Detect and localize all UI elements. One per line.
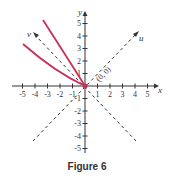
v-axis xyxy=(36,36,136,141)
origin-label: (0, 0) xyxy=(94,65,113,84)
origin-point xyxy=(83,84,88,89)
v-axis-label: v xyxy=(27,29,31,39)
svg-text:-4: -4 xyxy=(74,132,81,141)
svg-text:-5: -5 xyxy=(74,144,81,153)
u-axis-label: u xyxy=(139,33,144,43)
svg-text:4: 4 xyxy=(133,90,137,99)
x-axis-label: x xyxy=(157,85,162,95)
svg-text:-3: -3 xyxy=(44,90,51,99)
svg-text:2: 2 xyxy=(77,57,81,66)
svg-text:5: 5 xyxy=(77,19,81,28)
y-axis-arrow-icon xyxy=(83,11,88,16)
svg-text:3: 3 xyxy=(77,44,81,53)
svg-text:4: 4 xyxy=(77,32,81,41)
curve-upper xyxy=(43,20,85,86)
svg-text:-4: -4 xyxy=(32,90,39,99)
graph: -5 -4 -3 -2 -1 1 2 3 4 5 5 4 3 2 1 -1 -2… xyxy=(0,0,174,184)
svg-text:2: 2 xyxy=(108,90,112,99)
y-axis-label: y xyxy=(77,7,82,17)
svg-text:3: 3 xyxy=(121,90,125,99)
svg-text:1: 1 xyxy=(96,90,100,99)
curve-lower xyxy=(23,44,85,86)
svg-text:-2: -2 xyxy=(74,107,81,116)
figure-caption: Figure 6 xyxy=(0,161,174,172)
svg-text:-5: -5 xyxy=(19,90,26,99)
svg-text:5: 5 xyxy=(146,90,150,99)
svg-text:-1: -1 xyxy=(74,94,81,103)
x-tick-labels: -5 -4 -3 -2 -1 1 2 3 4 5 xyxy=(19,90,149,99)
svg-text:-3: -3 xyxy=(74,119,81,128)
v-axis-arrow-icon xyxy=(33,32,39,38)
svg-text:-2: -2 xyxy=(57,90,64,99)
